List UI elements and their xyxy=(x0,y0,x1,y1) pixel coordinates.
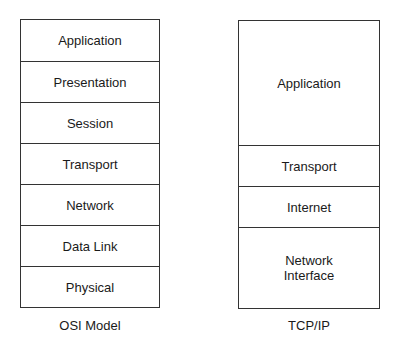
tcpip-stack: Application Transport Internet Network I… xyxy=(238,20,380,309)
osi-model-stack: Application Presentation Session Transpo… xyxy=(20,19,160,308)
osi-layer-presentation: Presentation xyxy=(21,61,159,102)
osi-layer-network: Network xyxy=(21,184,159,225)
osi-layer-physical: Physical xyxy=(21,266,159,307)
osi-layer-transport: Transport xyxy=(21,143,159,184)
tcpip-caption: TCP/IP xyxy=(238,318,380,333)
tcpip-layer-transport: Transport xyxy=(239,145,379,186)
osi-model-caption: OSI Model xyxy=(20,318,160,333)
osi-layer-data-link: Data Link xyxy=(21,225,159,266)
osi-layer-session: Session xyxy=(21,102,159,143)
tcpip-layer-application: Application xyxy=(239,21,379,145)
tcpip-layer-network-interface: Network Interface xyxy=(239,227,379,308)
tcpip-layer-internet: Internet xyxy=(239,186,379,227)
osi-layer-application: Application xyxy=(21,20,159,61)
